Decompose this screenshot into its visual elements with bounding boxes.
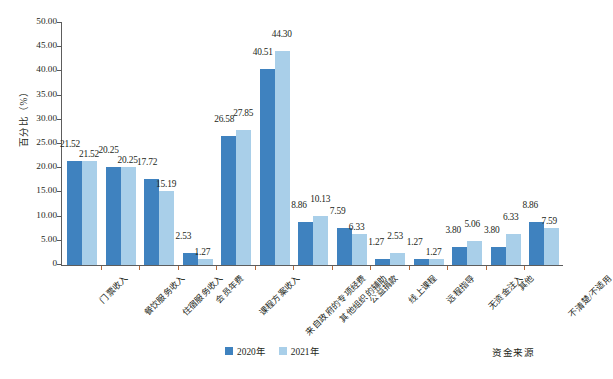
x-axis-tick-mark	[486, 266, 487, 270]
x-axis-category-label: 不清楚/不适用	[567, 273, 613, 319]
bar-value-label: 27.85	[233, 108, 253, 118]
bar	[260, 69, 275, 265]
bar	[467, 241, 482, 265]
bar-value-label: 8.86	[291, 200, 307, 210]
x-axis-category-label: 门票收入	[99, 273, 131, 305]
x-axis-category-label: 线上课程	[407, 273, 439, 305]
y-axis-tick-label: 25.00	[2, 138, 57, 147]
y-axis-tick-label: 5.00	[2, 235, 57, 244]
bar-value-label: 17.72	[137, 157, 157, 167]
bar	[298, 222, 313, 265]
x-axis-tick-mark	[370, 266, 371, 270]
bar-group: 7.596.33	[335, 22, 370, 265]
bar	[82, 161, 97, 265]
bar-group: 1.271.27	[412, 22, 447, 265]
bar	[352, 234, 367, 265]
bar	[390, 253, 405, 265]
bar	[337, 228, 352, 265]
y-axis-tick-label: 45.00	[2, 41, 57, 50]
bar-value-label: 15.19	[156, 179, 176, 189]
legend-item: 2021年	[279, 344, 319, 358]
bar-value-label: 7.59	[541, 216, 557, 226]
bar	[275, 51, 290, 265]
bar-value-label: 1.27	[426, 247, 442, 257]
bar-group: 2.531.27	[181, 22, 216, 265]
bar	[491, 247, 506, 265]
x-axis-title: 资金来源	[492, 345, 534, 359]
bar-value-label: 20.25	[99, 145, 119, 155]
x-axis-tick-mark	[409, 266, 410, 270]
chart-legend: 2020年2021年	[225, 344, 319, 358]
bar-value-label: 1.27	[407, 237, 423, 247]
bar-group: 8.8610.13	[296, 22, 331, 265]
bar-value-label: 3.80	[484, 225, 500, 235]
bar-group: 1.272.53	[373, 22, 408, 265]
bar-value-label: 6.33	[349, 222, 365, 232]
bar	[106, 167, 121, 265]
bar-group: 40.5144.30	[258, 22, 293, 265]
x-axis-line	[61, 265, 563, 266]
bar-value-label: 20.25	[118, 155, 138, 165]
bar	[159, 191, 174, 265]
y-axis-tick-label: 30.00	[2, 114, 57, 123]
x-axis-tick-mark	[293, 266, 294, 270]
x-axis-tick-mark	[139, 266, 140, 270]
y-axis-tick-label: 0	[2, 259, 57, 268]
x-axis-tick-mark	[101, 266, 102, 270]
bar	[429, 259, 444, 265]
bar-group: 3.805.06	[450, 22, 485, 265]
bar-value-label: 3.80	[445, 225, 461, 235]
y-axis-tick-label: 20.00	[2, 162, 57, 171]
y-axis-tick-label: 15.00	[2, 186, 57, 195]
bar	[529, 222, 544, 265]
bar-group: 8.867.59	[527, 22, 562, 265]
bar	[544, 228, 559, 265]
bar	[452, 247, 467, 265]
bar-value-label: 21.52	[60, 139, 80, 149]
bar	[414, 259, 429, 265]
x-axis-tick-mark	[255, 266, 256, 270]
y-axis-tick-label: 40.00	[2, 65, 57, 74]
bar-value-label: 1.27	[368, 237, 384, 247]
bar-group: 17.7215.19	[142, 22, 177, 265]
bar	[313, 216, 328, 265]
legend-label: 2021年	[291, 344, 319, 358]
bar-value-label: 10.13	[310, 194, 330, 204]
x-axis-tick-mark	[447, 266, 448, 270]
x-axis-tick-mark	[332, 266, 333, 270]
x-axis-tick-mark	[524, 266, 525, 270]
legend-item: 2020年	[225, 344, 265, 358]
bar-value-label: 44.30	[272, 29, 292, 39]
legend-swatch	[225, 347, 233, 355]
y-axis-tick-label: 10.00	[2, 211, 57, 220]
bar-value-label: 8.86	[522, 200, 538, 210]
bar-group: 3.806.33	[489, 22, 524, 265]
bar	[198, 259, 213, 265]
y-axis-tick-label: 50.00	[2, 17, 57, 26]
x-axis-category-label: 课程方案收入	[258, 273, 303, 318]
y-axis-tick-label: 35.00	[2, 90, 57, 99]
bar	[236, 130, 251, 265]
bar	[144, 179, 159, 265]
x-axis-category-label: 无资金注入	[487, 273, 525, 311]
bar	[375, 259, 390, 265]
bar-group: 20.2520.25	[104, 22, 139, 265]
x-axis-category-label: 远程指导	[445, 273, 477, 305]
x-axis-tick-mark	[178, 266, 179, 270]
legend-swatch	[279, 347, 287, 355]
bar-value-label: 40.51	[253, 47, 273, 57]
bar	[506, 234, 521, 265]
bar	[121, 167, 136, 265]
bar	[221, 136, 236, 265]
x-axis-tick-mark	[216, 266, 217, 270]
bar-value-label: 2.53	[176, 231, 192, 241]
y-axis-tick-labels: 50.0045.0040.0035.0030.0025.0020.0015.00…	[0, 0, 57, 379]
bar-value-label: 7.59	[330, 206, 346, 216]
bar-value-label: 26.58	[214, 114, 234, 124]
bar-group: 26.5827.85	[219, 22, 254, 265]
bar	[67, 161, 82, 265]
bar-value-label: 1.27	[195, 247, 211, 257]
bar-value-label: 6.33	[503, 212, 519, 222]
bar-value-label: 5.06	[464, 219, 480, 229]
